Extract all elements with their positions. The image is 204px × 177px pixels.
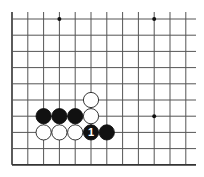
white-stone	[83, 109, 98, 124]
black-stone	[36, 109, 51, 124]
white-stone	[83, 92, 98, 107]
star-point	[57, 17, 61, 21]
black-stone	[52, 109, 67, 124]
move-number-label: 1	[88, 126, 94, 138]
black-stone: 1	[83, 125, 98, 140]
black-stone	[99, 125, 114, 140]
white-stone	[68, 125, 83, 140]
star-point	[152, 17, 156, 21]
go-board: 1	[0, 0, 204, 177]
black-stone	[68, 109, 83, 124]
white-stone	[36, 125, 51, 140]
star-point	[152, 114, 156, 118]
white-stone	[52, 125, 67, 140]
board-grid	[12, 12, 196, 165]
